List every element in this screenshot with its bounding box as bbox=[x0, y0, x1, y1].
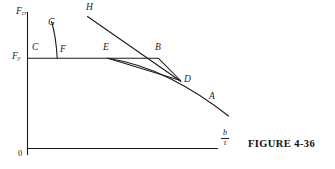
point-label-e: E bbox=[103, 43, 109, 53]
y-tick-label-sub: y bbox=[18, 54, 21, 61]
y-tick-label-fy: Fy bbox=[12, 52, 20, 62]
point-label-c: C bbox=[32, 43, 38, 53]
origin-label: 0 bbox=[18, 148, 22, 158]
point-label-d: D bbox=[184, 75, 191, 85]
point-label-a: A bbox=[209, 92, 215, 102]
x-axis-label-fraction: b t bbox=[219, 129, 231, 148]
point-label-h: H bbox=[86, 3, 93, 13]
x-axis-label-denominator: t bbox=[219, 139, 231, 147]
point-label-b: B bbox=[155, 43, 161, 53]
curve-e-d-a bbox=[108, 58, 229, 116]
y-axis-label: Fcr bbox=[16, 7, 27, 17]
line-h-d bbox=[88, 17, 182, 82]
point-label-f: F bbox=[60, 45, 66, 55]
x-axis-label-numerator: b bbox=[219, 129, 231, 137]
y-axis-label-sub: cr bbox=[22, 9, 27, 16]
figure-4-36: Fcr Fy 0 b t C G F H E B D A FIGURE 4-36 bbox=[0, 0, 335, 169]
point-label-g: G bbox=[48, 18, 55, 28]
figure-caption: FIGURE 4-36 bbox=[248, 138, 315, 149]
